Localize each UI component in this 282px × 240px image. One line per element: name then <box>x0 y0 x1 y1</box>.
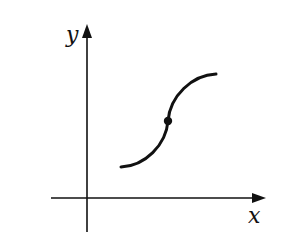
x-axis-label: x <box>248 203 261 228</box>
y-axis-arrow-icon <box>82 24 92 38</box>
diagram: y x <box>0 0 282 240</box>
y-axis-label: y <box>65 22 79 47</box>
x-axis-arrow-icon <box>252 193 266 203</box>
inflection-point-marker <box>164 117 172 125</box>
